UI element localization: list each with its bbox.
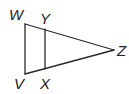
segment-vz	[25, 50, 114, 74]
label-y: Y	[40, 10, 51, 27]
label-w: W	[9, 6, 25, 23]
label-z: Z	[116, 42, 127, 59]
label-v: V	[14, 75, 26, 92]
label-x: X	[39, 75, 51, 92]
segment-wz	[25, 24, 114, 50]
triangle-diagram: W Y Z V X	[0, 0, 129, 94]
